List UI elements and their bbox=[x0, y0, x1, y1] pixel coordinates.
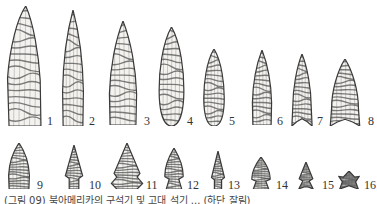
projectile-point-11 bbox=[110, 143, 144, 189]
point-number-label: 9 bbox=[37, 179, 43, 191]
projectile-point-14 bbox=[249, 157, 273, 189]
point-number-label: 12 bbox=[187, 179, 199, 191]
point-number-label: 1 bbox=[47, 115, 53, 127]
projectile-point-16 bbox=[338, 171, 360, 189]
projectile-point-2 bbox=[60, 10, 86, 126]
projectile-point-8 bbox=[329, 59, 361, 126]
projectile-point-1 bbox=[6, 6, 44, 126]
projectile-point-10 bbox=[62, 145, 86, 189]
projectile-point-12 bbox=[162, 148, 186, 189]
projectile-point-4 bbox=[157, 27, 186, 126]
projectile-point-15 bbox=[296, 162, 316, 189]
point-number-label: 15 bbox=[322, 179, 334, 191]
figure-caption: (그림 09) 북아메리카의 구석기 및 고대 석기 ... (하단 잘림) bbox=[4, 195, 250, 204]
projectile-point-6 bbox=[250, 50, 274, 125]
point-number-label: 3 bbox=[144, 115, 150, 127]
point-number-label: 11 bbox=[146, 179, 158, 191]
projectile-point-5 bbox=[202, 49, 226, 126]
point-number-label: 7 bbox=[317, 115, 323, 127]
point-number-label: 14 bbox=[276, 179, 288, 191]
projectile-point-3 bbox=[106, 21, 140, 125]
point-number-label: 6 bbox=[277, 115, 283, 127]
point-number-label: 8 bbox=[368, 115, 374, 127]
point-number-label: 16 bbox=[364, 179, 376, 191]
projectile-point-13 bbox=[209, 151, 227, 189]
point-number-label: 2 bbox=[89, 115, 95, 127]
projectile-points-figure: 12345678910111213141516 bbox=[0, 0, 377, 204]
projectile-point-7 bbox=[291, 54, 313, 126]
point-number-label: 4 bbox=[187, 115, 193, 127]
point-number-label: 13 bbox=[228, 179, 240, 191]
projectile-point-9 bbox=[6, 143, 32, 189]
point-number-label: 10 bbox=[89, 179, 101, 191]
point-number-label: 5 bbox=[229, 115, 235, 127]
